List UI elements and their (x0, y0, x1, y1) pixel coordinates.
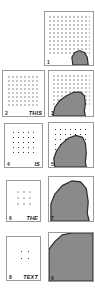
panel-figure: 12THIS34IS56THE78TEXT9 (0, 0, 95, 308)
panel-index-label: 7 (51, 215, 54, 221)
dot-grid (11, 130, 36, 155)
panel-index-label: 4 (7, 161, 10, 167)
gray-region (49, 123, 93, 167)
panel-2: 2THIS (2, 70, 45, 117)
dot-grid (18, 248, 29, 263)
gray-region (49, 71, 93, 116)
dot-grid (15, 189, 32, 207)
panel-index-label: 3 (51, 110, 54, 116)
panel-word-label: THE (26, 215, 38, 221)
panel-9: 9 (48, 232, 94, 282)
panel-word-label: THIS (29, 110, 42, 116)
gray-region (45, 12, 93, 65)
panel-6: 6THE (6, 180, 41, 222)
panel-7: 7 (48, 176, 94, 222)
dot-grid (7, 75, 40, 106)
panel-index-label: 8 (9, 274, 12, 280)
panel-index-label: 5 (51, 161, 54, 167)
panel-4: 4IS (4, 123, 43, 168)
panel-word-label: IS (34, 161, 40, 167)
panel-5: 5 (48, 122, 94, 168)
panel-1: 1 (44, 11, 94, 66)
panel-index-label: 9 (51, 275, 54, 281)
panel-8: 8TEXT (6, 236, 41, 281)
gray-region (49, 233, 93, 281)
panel-index-label: 2 (5, 110, 8, 116)
panel-index-label: 6 (9, 215, 12, 221)
panel-3: 3 (48, 70, 94, 117)
panel-word-label: TEXT (23, 274, 38, 280)
panel-index-label: 1 (47, 59, 50, 65)
gray-region (49, 177, 93, 221)
